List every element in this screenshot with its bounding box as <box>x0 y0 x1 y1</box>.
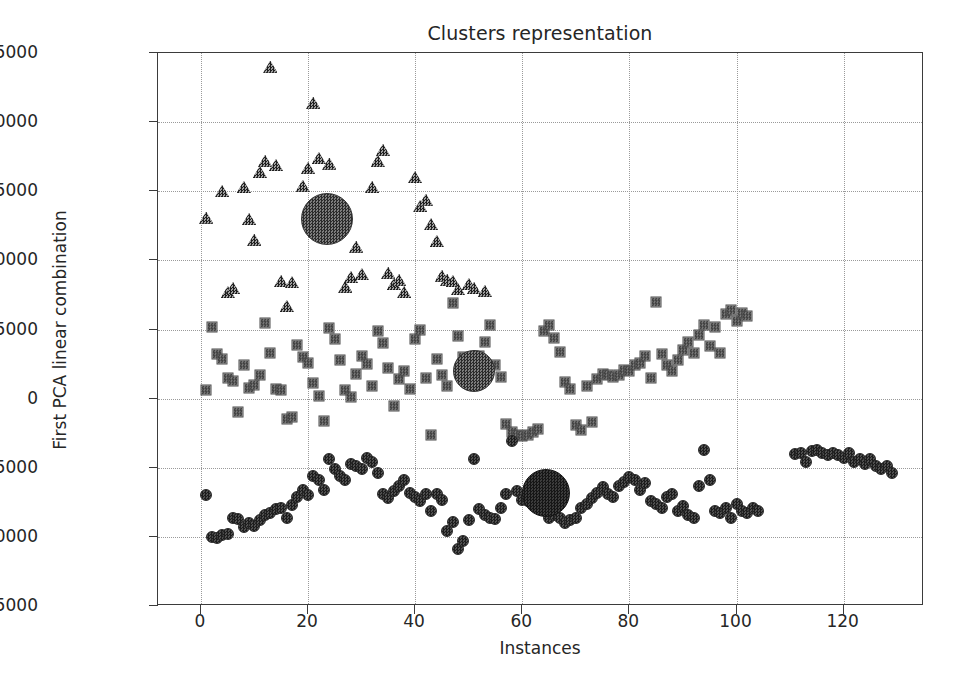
x-tick-label: 80 <box>618 611 640 631</box>
data-point-square <box>742 310 753 321</box>
x-tick-mark <box>200 605 201 614</box>
data-point-triangle <box>253 166 267 178</box>
data-point-square <box>399 365 410 376</box>
gridline-vertical <box>737 53 738 604</box>
chart-title: Clusters representation <box>157 22 923 44</box>
data-point-square <box>313 390 324 401</box>
y-tick-mark <box>149 605 158 606</box>
gridline-vertical <box>308 53 309 604</box>
data-point-circle <box>886 467 898 479</box>
gridline-vertical <box>201 53 202 604</box>
data-point-square <box>683 336 694 347</box>
data-point-triangle <box>242 213 256 225</box>
data-point-square <box>308 378 319 389</box>
x-tick-label: 40 <box>403 611 425 631</box>
gridline-horizontal <box>158 537 922 538</box>
gridline-horizontal <box>158 122 922 123</box>
data-point-circle <box>318 484 330 496</box>
data-point-square <box>260 317 271 328</box>
data-point-square <box>640 350 651 361</box>
gridline-horizontal <box>158 260 922 261</box>
data-point-square <box>688 348 699 359</box>
data-point-circle <box>447 516 459 528</box>
data-point-square <box>726 305 737 316</box>
data-point-circle <box>463 514 475 526</box>
data-point-circle <box>200 489 212 501</box>
data-point-triangle <box>430 235 444 247</box>
data-point-square <box>361 359 372 370</box>
data-point-square <box>377 338 388 349</box>
data-point-square <box>238 360 249 371</box>
data-point-square <box>345 392 356 403</box>
data-point-square <box>217 353 228 364</box>
data-point-square <box>415 324 426 335</box>
data-point-circle <box>656 502 668 514</box>
data-point-triangle <box>269 159 283 171</box>
x-tick-mark <box>414 605 415 614</box>
data-point-square <box>667 365 678 376</box>
y-tick-label: −5000 <box>0 457 38 477</box>
y-tick-label: 10000 <box>0 249 38 269</box>
data-point-triangle <box>226 282 240 294</box>
x-tick-mark <box>521 605 522 614</box>
data-point-square <box>576 425 587 436</box>
data-point-triangle <box>424 218 438 230</box>
data-point-circle <box>457 535 469 547</box>
x-tick-mark <box>628 605 629 614</box>
data-point-square <box>485 320 496 331</box>
data-point-square <box>292 339 303 350</box>
data-point-triangle <box>355 268 369 280</box>
data-point-square <box>549 332 560 343</box>
data-point-square <box>533 424 544 435</box>
data-point-circle <box>436 494 448 506</box>
data-point-square <box>227 375 238 386</box>
data-point-square <box>672 354 683 365</box>
data-point-triangle <box>247 234 261 246</box>
data-point-triangle <box>296 180 310 192</box>
data-point-square <box>388 400 399 411</box>
data-point-square <box>286 411 297 422</box>
data-point-square <box>383 363 394 374</box>
y-tick-label: −10000 <box>0 526 38 546</box>
data-point-circle <box>489 513 501 525</box>
gridline-vertical <box>844 53 845 604</box>
data-point-square <box>276 385 287 396</box>
data-point-square <box>367 381 378 392</box>
data-point-circle <box>725 512 737 524</box>
gridline-horizontal <box>158 191 922 192</box>
data-point-square <box>442 381 453 392</box>
data-point-circle <box>698 444 710 456</box>
data-point-square <box>565 383 576 394</box>
data-point-circle <box>425 505 437 517</box>
data-point-square <box>302 357 313 368</box>
data-point-circle <box>639 477 651 489</box>
data-point-circle <box>468 453 480 465</box>
x-tick-label: 100 <box>719 611 751 631</box>
data-point-triangle <box>349 241 363 253</box>
data-point-square <box>351 368 362 379</box>
data-point-circle <box>356 463 368 475</box>
data-point-square <box>447 298 458 309</box>
data-point-square <box>436 370 447 381</box>
data-point-square <box>544 320 555 331</box>
cluster-centroid <box>453 350 495 392</box>
data-point-square <box>335 354 346 365</box>
data-point-triangle <box>371 155 385 167</box>
data-point-square <box>431 353 442 364</box>
y-tick-label: 20000 <box>0 111 38 131</box>
cluster-centroid <box>301 193 353 245</box>
data-point-triangle <box>215 185 229 197</box>
data-point-square <box>656 349 667 360</box>
data-point-square <box>586 417 597 428</box>
data-point-square <box>410 334 421 345</box>
data-point-triangle <box>280 300 294 312</box>
data-point-triangle <box>365 181 379 193</box>
data-point-square <box>704 341 715 352</box>
data-point-triangle <box>285 276 299 288</box>
plot-area <box>157 52 923 605</box>
data-point-square <box>581 381 592 392</box>
data-point-triangle <box>376 144 390 156</box>
x-tick-label: 0 <box>194 611 205 631</box>
x-tick-label: 20 <box>296 611 318 631</box>
data-point-circle <box>495 502 507 514</box>
